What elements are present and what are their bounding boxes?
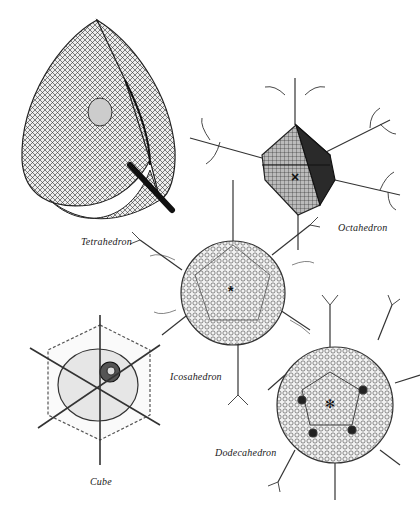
octahedron-center-marker: × xyxy=(291,169,299,185)
icosahedron-center-marker: * xyxy=(228,283,234,299)
dodecahedron-specimen xyxy=(268,295,420,500)
label-icosahedron: Icosahedron xyxy=(170,371,222,382)
plate-illustration: × * ✻ xyxy=(0,0,420,510)
dodecahedron-center-marker: ✻ xyxy=(325,397,335,411)
radiolarian-plate: × * ✻ Tetrahedron Octahedron Icosahedron… xyxy=(0,0,420,510)
label-tetrahedron: Tetrahedron xyxy=(81,236,132,247)
label-cube: Cube xyxy=(90,476,112,487)
label-dodecahedron: Dodecahedron xyxy=(215,447,276,458)
tetrahedron-specimen xyxy=(22,20,175,219)
label-octahedron: Octahedron xyxy=(338,222,387,233)
cube-specimen xyxy=(30,315,160,465)
